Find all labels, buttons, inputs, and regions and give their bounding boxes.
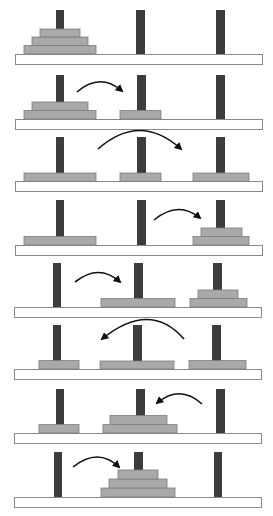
step-panel-3 [16, 200, 263, 256]
base-board [16, 120, 263, 130]
peg-c [216, 389, 225, 433]
peg-b [137, 200, 146, 245]
disk-small [120, 111, 161, 120]
peg-c [216, 75, 225, 119]
peg-c [214, 452, 222, 497]
disk-large [101, 299, 175, 308]
move-arrow-icon [154, 209, 200, 220]
disk-small [39, 425, 79, 434]
step-panel-1 [16, 75, 263, 130]
disk-medium [109, 479, 167, 488]
disk-large [101, 488, 175, 497]
step-panel-0 [16, 10, 263, 65]
step-panel-5 [15, 320, 262, 380]
peg-a [54, 452, 62, 497]
peg-b [134, 452, 143, 470]
base-board [15, 498, 262, 508]
step-panel-4 [15, 263, 262, 318]
disk-small [201, 228, 242, 237]
disk-medium [189, 361, 246, 370]
disk-medium [32, 102, 88, 111]
move-arrow-icon [102, 320, 184, 340]
base-board [16, 246, 263, 256]
disk-large [100, 361, 174, 369]
move-arrow-icon [77, 82, 122, 92]
disk-medium [193, 237, 249, 246]
disk-medium [110, 416, 167, 425]
disk-medium [32, 37, 88, 46]
base-board [15, 434, 262, 444]
peg-b [136, 10, 145, 54]
move-arrow-icon [73, 457, 119, 467]
peg-a [53, 263, 61, 307]
move-arrow-icon [157, 394, 202, 404]
disk-medium [190, 299, 247, 308]
disk-large [24, 46, 96, 55]
peg-c [216, 10, 225, 54]
step-panel-6 [15, 389, 262, 444]
tower-of-hanoi-diagram [0, 0, 273, 516]
base-board [15, 308, 262, 318]
disk-large [24, 111, 96, 120]
disk-large [103, 425, 177, 434]
base-board [16, 55, 263, 65]
disk-small [39, 361, 79, 370]
base-board [15, 370, 262, 380]
disk-medium [193, 173, 249, 182]
step-panel-2 [16, 131, 263, 192]
base-board [16, 182, 263, 192]
move-arrow-icon [75, 273, 120, 283]
disk-large [24, 173, 96, 182]
disk-small [198, 290, 238, 299]
disk-small [120, 173, 161, 182]
disk-large [24, 237, 96, 246]
disk-small [40, 29, 80, 37]
disk-small [118, 470, 158, 479]
step-panel-7 [15, 452, 262, 508]
